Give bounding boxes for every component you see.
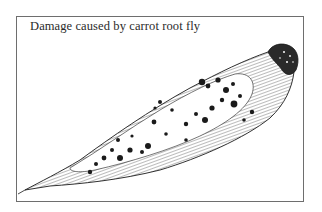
carrot-illustration-icon — [0, 0, 322, 212]
carrot-skin-hatching — [25, 51, 294, 190]
root-tip — [18, 190, 25, 194]
